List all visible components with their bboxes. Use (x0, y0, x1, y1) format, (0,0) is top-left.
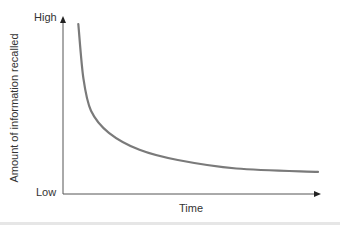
y-axis-label: Amount of information recalled (8, 33, 20, 182)
bottom-band (0, 222, 340, 225)
y-tick-high: High (34, 11, 57, 23)
x-axis-arrow-icon (314, 191, 321, 197)
x-axis-label: Time (179, 202, 203, 214)
y-tick-low: Low (36, 186, 56, 198)
recall-curve (78, 24, 318, 172)
y-axis-arrow-icon (60, 16, 66, 23)
